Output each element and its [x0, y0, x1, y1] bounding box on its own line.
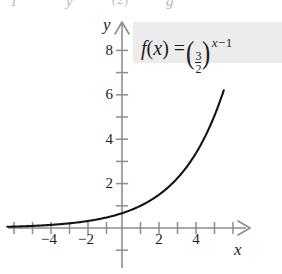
x-tick-label-neg4: −4: [36, 231, 62, 248]
x-tick-label-neg2: −2: [73, 231, 99, 248]
x-tick-label-pos2: 2: [146, 231, 172, 248]
figure-root: 1 y (2) g f(x) =(32)x−1: [0, 0, 282, 274]
y-tick-label-6: 6: [95, 86, 113, 103]
y-axis-label: y: [103, 15, 111, 35]
exponential-curve: [7, 90, 223, 226]
x-tick-label-pos4: 4: [183, 231, 209, 248]
x-axis-label: x: [234, 240, 242, 260]
y-tick-label-8: 8: [95, 42, 113, 59]
y-tick-label-2: 2: [95, 175, 113, 192]
y-tick-label-4: 4: [95, 131, 113, 148]
